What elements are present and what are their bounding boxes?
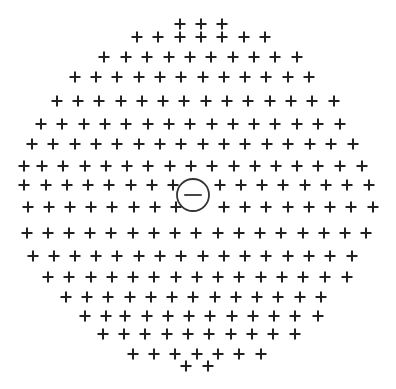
plus-charge-icon	[250, 161, 261, 172]
plus-charge-icon	[243, 96, 254, 107]
plus-charge-icon	[19, 180, 30, 191]
plus-charge-icon	[196, 32, 207, 43]
plus-charge-icon	[205, 311, 216, 322]
plus-charge-icon	[201, 96, 212, 107]
plus-charge-icon	[298, 228, 309, 239]
plus-charge-icon	[149, 272, 160, 283]
plus-charge-icon	[126, 180, 137, 191]
plus-charge-icon	[62, 180, 73, 191]
plus-charge-icon	[27, 139, 38, 150]
plus-charge-icon	[86, 202, 97, 213]
plus-charge-icon	[298, 272, 309, 283]
plus-charge-icon	[185, 52, 196, 63]
plus-charge-icon	[79, 119, 90, 130]
plus-charge-icon	[240, 139, 251, 150]
plus-charge-icon	[213, 228, 224, 239]
plus-charge-icon	[86, 272, 97, 283]
plus-charge-icon	[121, 52, 132, 63]
plus-charge-icon	[265, 96, 276, 107]
plus-charge-icon	[142, 52, 153, 63]
plus-charge-icon	[248, 311, 259, 322]
plus-charge-icon	[325, 251, 336, 262]
plus-charge-icon	[249, 119, 260, 130]
plus-charge-icon	[213, 272, 224, 283]
plus-charge-icon	[41, 180, 52, 191]
plus-charge-icon	[99, 52, 110, 63]
plus-charge-icon	[128, 272, 139, 283]
plus-charge-icon	[277, 272, 288, 283]
plus-charge-icon	[262, 139, 273, 150]
plus-charge-icon	[249, 52, 260, 63]
plus-charge-icon	[137, 96, 148, 107]
plus-charge-icon	[219, 72, 230, 83]
plus-charge-icon	[326, 139, 337, 150]
plus-charge-icon	[261, 72, 272, 83]
plus-charge-icon	[64, 272, 75, 283]
plus-charge-icon	[83, 180, 94, 191]
plus-charge-icon	[192, 349, 203, 360]
plus-charge-icon	[357, 161, 368, 172]
plus-charge-icon	[304, 251, 315, 262]
plus-charge-icon	[57, 119, 68, 130]
plus-charge-icon	[203, 361, 214, 372]
plus-charge-icon	[165, 161, 176, 172]
plus-charge-icon	[283, 251, 294, 262]
plus-charge-icon	[107, 202, 118, 213]
plus-charge-icon	[290, 329, 301, 340]
plus-charge-icon	[313, 161, 324, 172]
plus-charge-icon	[65, 202, 76, 213]
plus-charge-icon	[58, 161, 69, 172]
plus-charge-icon	[171, 272, 182, 283]
plus-charge-icon	[155, 72, 166, 83]
plus-charge-icon	[28, 251, 39, 262]
plus-charge-icon	[346, 202, 357, 213]
plus-charge-icon	[149, 228, 160, 239]
plus-charge-icon	[300, 180, 311, 191]
plus-charge-icon	[147, 180, 158, 191]
plus-charge-icon	[305, 139, 316, 150]
plus-charge-icon	[247, 329, 258, 340]
plus-charge-icon	[167, 292, 178, 303]
plus-charge-icon	[270, 52, 281, 63]
plus-charge-icon	[295, 292, 306, 303]
plus-charge-icon	[316, 292, 327, 303]
plus-charge-icon	[185, 119, 196, 130]
plus-charge-icon	[176, 72, 187, 83]
plus-charge-icon	[119, 329, 130, 340]
plus-charge-icon	[240, 72, 251, 83]
plus-charge-icon	[121, 119, 132, 130]
plus-charge-icon	[227, 311, 238, 322]
plus-charge-icon	[134, 251, 145, 262]
plus-charge-icon	[70, 139, 81, 150]
plus-charge-icon	[101, 161, 112, 172]
plus-charge-icon	[125, 292, 136, 303]
plus-charge-icon	[179, 96, 190, 107]
plus-charge-icon	[290, 311, 301, 322]
plus-charge-icon	[252, 292, 263, 303]
plus-charge-icon	[255, 228, 266, 239]
plus-charge-icon	[98, 329, 109, 340]
plus-charge-icon	[176, 251, 187, 262]
plus-charge-icon	[61, 292, 72, 303]
plus-charge-icon	[213, 349, 224, 360]
plus-charge-icon	[292, 52, 303, 63]
plus-charge-icon	[163, 311, 174, 322]
plus-charge-icon	[198, 251, 209, 262]
plus-charge-icon	[168, 180, 179, 191]
plus-charge-icon	[73, 96, 84, 107]
plus-charge-icon	[325, 202, 336, 213]
plus-charge-icon	[240, 202, 251, 213]
plus-charge-icon	[364, 180, 375, 191]
plus-charge-icon	[261, 251, 272, 262]
plus-charge-icon	[112, 139, 123, 150]
plus-charge-icon	[368, 202, 379, 213]
plus-charge-icon	[49, 251, 60, 262]
plus-charge-icon	[271, 161, 282, 172]
plus-charge-icon	[134, 72, 145, 83]
plus-charge-icon	[268, 329, 279, 340]
plus-charge-icon	[64, 228, 75, 239]
plus-charge-icon	[94, 96, 105, 107]
plus-charge-icon	[273, 292, 284, 303]
plus-charge-icon	[307, 96, 318, 107]
plus-charge-icon	[283, 202, 294, 213]
